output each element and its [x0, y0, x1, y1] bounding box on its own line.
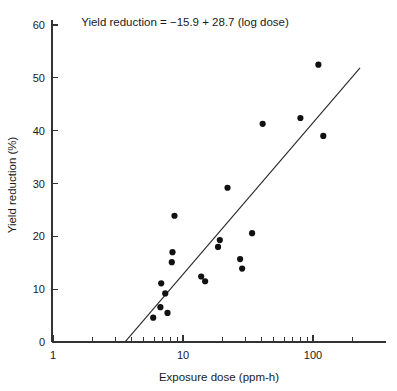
- data-point-8: [198, 273, 204, 279]
- scatter-plot: Yield reduction = −15.9 + 28.7 (log dose…: [0, 0, 397, 391]
- y-tick-label-50: 50: [33, 72, 45, 84]
- data-point-6: [169, 249, 175, 255]
- data-point-2: [158, 280, 164, 286]
- regression-fit-line: [125, 68, 360, 342]
- data-point-19: [320, 133, 326, 139]
- y-axis-title: Yield reduction (%): [6, 136, 18, 233]
- chart-figure: Yield reduction = −15.9 + 28.7 (log dose…: [0, 0, 397, 391]
- data-point-9: [202, 278, 208, 284]
- y-axis-ticks: 0102030405060: [33, 19, 58, 348]
- data-point-0: [150, 315, 156, 321]
- data-point-1: [157, 304, 163, 310]
- data-point-17: [297, 115, 303, 121]
- x-tick-label-1: 1: [50, 349, 56, 361]
- data-point-11: [217, 237, 223, 243]
- data-point-5: [169, 259, 175, 265]
- data-point-4: [164, 310, 170, 316]
- y-tick-label-20: 20: [33, 230, 45, 242]
- data-point-13: [237, 256, 243, 262]
- data-point-15: [249, 230, 255, 236]
- data-point-7: [171, 213, 177, 219]
- y-tick-label-40: 40: [33, 125, 45, 137]
- x-axis-title: Exposure dose (ppm-h): [159, 371, 279, 383]
- y-tick-label-10: 10: [33, 283, 45, 295]
- y-tick-label-60: 60: [33, 19, 45, 31]
- y-tick-label-30: 30: [33, 178, 45, 190]
- y-tick-label-0: 0: [39, 336, 45, 348]
- data-point-3: [162, 290, 168, 296]
- data-point-16: [260, 121, 266, 127]
- x-axis-ticks: 110100: [50, 335, 352, 361]
- data-point-14: [239, 265, 245, 271]
- x-tick-label-10: 10: [177, 349, 189, 361]
- data-point-12: [224, 185, 230, 191]
- data-point-18: [315, 62, 321, 68]
- x-tick-label-100: 100: [304, 349, 322, 361]
- regression-equation-annotation: Yield reduction = −15.9 + 28.7 (log dose…: [81, 16, 289, 28]
- fit-line-segment: [125, 68, 360, 342]
- data-point-10: [215, 244, 221, 250]
